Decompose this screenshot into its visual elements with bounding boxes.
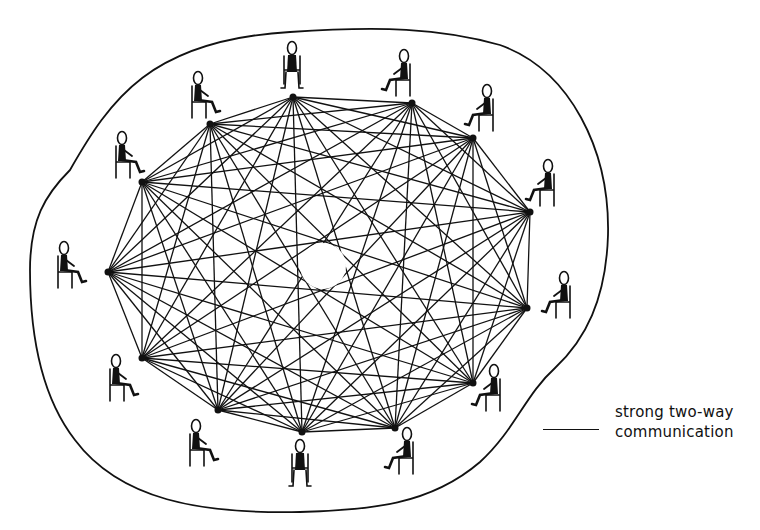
edge-p10-p11 — [108, 272, 142, 358]
edge-p5-p6 — [473, 308, 527, 383]
node-hub-p12 — [139, 179, 146, 186]
seated-person-icon — [385, 428, 413, 475]
seated-person-icon — [192, 72, 220, 119]
edge-p3-p9 — [218, 138, 473, 410]
seated-person-icon — [116, 132, 144, 179]
edge-p1-p2 — [293, 97, 412, 103]
edge-p11-p12 — [108, 182, 142, 272]
node-hub-p5 — [524, 305, 531, 312]
node-hub-p13 — [207, 121, 214, 128]
edge-p5-p12 — [142, 182, 527, 308]
node-hub-p1 — [290, 94, 297, 101]
communication-network-diagram — [0, 0, 760, 530]
edge-p9-p10 — [142, 358, 218, 410]
edge-p9-p13 — [210, 124, 218, 410]
legend-label-line-1: strong two-way — [615, 402, 734, 422]
seated-person-icon — [542, 272, 570, 319]
node-hub-p7 — [392, 425, 399, 432]
edge-p6-p9 — [218, 383, 473, 410]
node-hub-p2 — [409, 100, 416, 107]
seated-person-icon — [281, 42, 303, 89]
edge-p1-p3 — [293, 97, 473, 138]
legend-line-sample — [543, 429, 599, 430]
seated-person-icon — [289, 440, 311, 487]
seated-person-icon — [526, 160, 554, 207]
node-hub-p3 — [470, 135, 477, 142]
edge-p10-p13 — [142, 124, 210, 358]
edge-p5-p10 — [142, 308, 527, 358]
center-hole — [300, 243, 346, 289]
node-hub-p6 — [470, 380, 477, 387]
edge-p4-p10 — [142, 212, 530, 358]
seated-person-icon — [110, 355, 138, 402]
seated-person-icon — [382, 50, 410, 97]
node-hub-p4 — [527, 209, 534, 216]
seated-person-icon — [465, 85, 493, 132]
edge-p3-p13 — [210, 124, 473, 138]
edge-p3-p11 — [108, 138, 473, 272]
edge-p2-p5 — [412, 103, 527, 308]
legend: strong two-way communication — [543, 402, 734, 442]
seated-person-icon — [190, 420, 218, 467]
legend-label: strong two-way communication — [615, 402, 734, 442]
edge-p6-p10 — [142, 358, 473, 383]
node-hub-p9 — [215, 407, 222, 414]
seated-person-icon — [58, 242, 86, 289]
node-hub-p11 — [105, 269, 112, 276]
legend-label-line-2: communication — [615, 422, 734, 442]
edge-p4-p5 — [527, 212, 530, 308]
edge-p7-p10 — [142, 358, 395, 428]
node-hub-p8 — [299, 429, 306, 436]
node-hub-p10 — [139, 355, 146, 362]
edge-p4-p7 — [395, 212, 530, 428]
edge-p3-p4 — [473, 138, 530, 212]
